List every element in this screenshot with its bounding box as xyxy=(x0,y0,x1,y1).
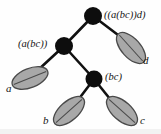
edges-group xyxy=(37,16,126,104)
node-label-left-internal: (a(bc)) xyxy=(18,39,47,50)
node-label-right-internal: (bc) xyxy=(105,72,122,83)
internal-node-right-internal xyxy=(86,71,103,88)
leaf-b xyxy=(49,91,90,131)
internal-node-root xyxy=(84,7,102,25)
bottom-edge-band xyxy=(0,129,161,134)
leaf-a xyxy=(9,62,51,94)
leaf-label-c: c xyxy=(140,115,145,126)
leaf-label-d: d xyxy=(143,55,149,66)
leaf-label-a: a xyxy=(6,83,12,94)
node-label-root: ((a(bc))d) xyxy=(104,10,145,21)
internal-node-left-internal xyxy=(55,37,73,55)
leaf-label-b: b xyxy=(43,115,49,126)
tree-diagram: ((a(bc))d)(a(bc))(bc)abcd xyxy=(0,0,161,134)
nodes-group xyxy=(55,7,103,88)
